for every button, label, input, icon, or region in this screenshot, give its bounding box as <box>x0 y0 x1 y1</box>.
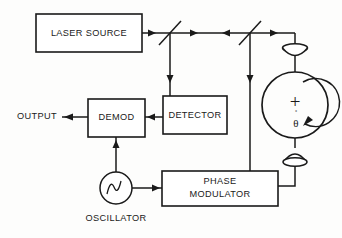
oscillator-label: OSCILLATOR <box>86 213 147 223</box>
arrowhead-to-phase-modulator <box>247 75 254 83</box>
arrowhead-to-detector <box>167 75 174 83</box>
arrowhead-oscillator-to-demod <box>113 140 120 148</box>
arrowhead-mid-left <box>222 30 230 37</box>
lens-top-cone <box>283 48 308 56</box>
fiber-optic-gyroscope-diagram: LASER SOURCE + θ ˚ <box>0 0 342 238</box>
output-label: OUTPUT <box>17 111 57 121</box>
block-phase-modulator: PHASE MODULATOR <box>162 171 278 206</box>
laser-source-label: LASER SOURCE <box>51 28 127 38</box>
coil-rate-symbol: θ <box>293 117 298 129</box>
coil-rate-dot: ˚ <box>295 109 298 118</box>
link-lens-bottom-to-phase-modulator <box>278 178 295 186</box>
lens-top <box>283 44 308 72</box>
fiber-coil: + θ ˚ <box>262 72 340 138</box>
arrowhead-laser-out <box>148 30 156 37</box>
oscillator-circle <box>100 172 132 204</box>
arrowhead-to-lens <box>270 30 278 37</box>
lens-bottom <box>283 138 307 178</box>
demod-label: DEMOD <box>99 112 135 122</box>
block-detector: DETECTOR <box>163 96 227 134</box>
arrowhead-detector-to-demod <box>147 114 155 121</box>
block-demod: DEMOD <box>88 99 145 137</box>
lens-bottom-ellipse <box>283 158 307 166</box>
arrowhead-to-phase-mod-input <box>152 185 160 192</box>
detector-label: DETECTOR <box>168 110 221 120</box>
arrowhead-mid-right <box>190 30 198 37</box>
oscillator: OSCILLATOR <box>86 137 147 223</box>
block-laser-source: LASER SOURCE <box>36 14 142 52</box>
diagram-canvas: LASER SOURCE + θ ˚ <box>0 0 342 238</box>
phase-modulator-label-line1: PHASE <box>204 176 237 186</box>
arrowhead-output <box>64 114 73 121</box>
phase-modulator-label-line2: MODULATOR <box>189 189 250 199</box>
